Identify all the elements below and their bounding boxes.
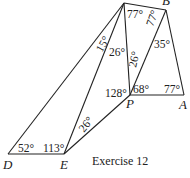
segment-ep — [64, 95, 130, 154]
angle-b-left: 77° — [144, 8, 161, 28]
vertex-label-b: B — [162, 0, 170, 8]
angle-c-mid: 26° — [109, 46, 126, 58]
angle-e: 113° — [43, 142, 65, 154]
angle-d: 52° — [18, 142, 35, 154]
angle-a: 77° — [164, 83, 181, 95]
angle-cp-side: 26° — [126, 50, 141, 69]
angle-p-right: 68° — [133, 83, 150, 95]
angle-b-right: 35° — [154, 38, 171, 50]
angle-c-right: 77° — [127, 8, 144, 20]
vertex-label-e: E — [59, 157, 68, 172]
vertex-label-a: A — [178, 97, 187, 112]
angle-p-left: 128° — [105, 87, 127, 99]
geometry-figure: B P A D E 77° 77° 35° 15° 26° 26° 128° 6… — [0, 0, 190, 178]
segment-ce — [64, 3, 124, 154]
figure-caption: Exercise 12 — [92, 154, 148, 168]
segment-cd — [8, 3, 124, 154]
vertex-label-d: D — [2, 157, 13, 172]
